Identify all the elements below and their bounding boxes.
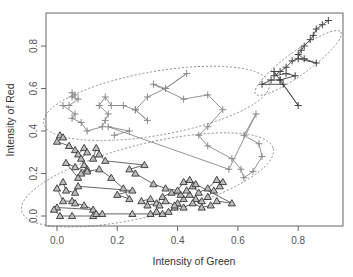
y-tick-label: 0.2 (28, 166, 39, 180)
y-tick-label: 0.0 (28, 209, 39, 223)
y-tick-label: 0.6 (28, 81, 39, 95)
x-tick-label: 0.6 (231, 235, 245, 246)
x-tick-label: 0.4 (171, 235, 185, 246)
y-axis-title: Intensity of Red (4, 83, 16, 156)
x-tick-label: 0.8 (291, 235, 305, 246)
x-tick-label: 0.0 (50, 235, 64, 246)
x-axis-title: Intensity of Green (153, 255, 236, 267)
y-tick-label: 0.4 (28, 124, 39, 138)
scatter-chart: 0.00.20.40.60.8 0.00.20.40.60.8 Intensit… (0, 0, 353, 277)
y-tick-label: 0.8 (28, 39, 39, 53)
x-tick-label: 0.2 (110, 235, 124, 246)
